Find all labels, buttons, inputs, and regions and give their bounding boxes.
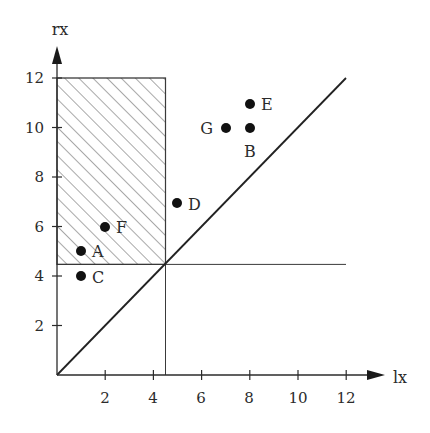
y-tick-label: 2 [34, 317, 44, 335]
y-axis-arrow-icon [52, 46, 62, 64]
x-tick-label: 8 [244, 389, 254, 407]
svg-text:C: C [92, 268, 104, 287]
point-E: E [245, 95, 273, 114]
x-tick-label: 10 [288, 389, 307, 407]
x-axis-label: lx [393, 368, 407, 387]
svg-text:G: G [200, 119, 213, 138]
svg-text:D: D [188, 195, 201, 214]
diagram-figure: 2 4 6 8 10 12 lx 2 4 6 8 10 12 rx A B [0, 0, 430, 433]
svg-text:F: F [116, 218, 127, 237]
point-C: C [76, 268, 104, 287]
svg-text:B: B [244, 142, 256, 161]
x-axis-arrow-icon [367, 370, 385, 380]
svg-text:E: E [261, 95, 273, 114]
y-tick-label: 10 [25, 119, 44, 137]
x-tick-label: 2 [100, 389, 110, 407]
x-tick-label: 12 [336, 389, 355, 407]
svg-text:A: A [91, 242, 104, 261]
point-D: D [172, 195, 201, 214]
y-tick-label: 6 [34, 218, 44, 236]
x-tick-label: 6 [196, 389, 206, 407]
x-axis: 2 4 6 8 10 12 lx [57, 368, 407, 407]
point-G: G [200, 119, 231, 138]
y-tick-label: 4 [34, 267, 44, 285]
shaded-region [57, 78, 166, 264]
y-axis-label: rx [52, 20, 69, 39]
x-tick-label: 4 [148, 389, 158, 407]
y-tick-label: 12 [25, 69, 44, 87]
point-B: B [244, 123, 256, 161]
y-tick-label: 8 [34, 168, 44, 186]
